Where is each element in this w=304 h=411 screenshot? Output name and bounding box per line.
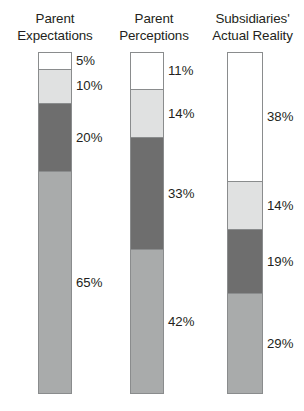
segment-label-group: 38%14%19%29% — [267, 52, 304, 394]
segment-value-label: 33% — [168, 187, 194, 201]
segment-value-label: 42% — [168, 315, 194, 329]
bar-segment — [131, 53, 163, 90]
segment-value-label: 11% — [168, 64, 193, 78]
chart-column-parent-expectations: Parent Expectations 5%10%20%65% — [0, 0, 110, 411]
chart-column-parent-perceptions: Parent Perceptions 11%14%33%42% — [104, 0, 204, 411]
bar-segment — [228, 53, 262, 182]
bar-segment — [228, 181, 262, 230]
segment-value-label: 38% — [267, 110, 293, 124]
segment-value-label: 14% — [267, 199, 293, 213]
segment-value-label: 14% — [168, 107, 194, 121]
segment-value-label: 20% — [76, 131, 102, 145]
column-title: Parent Expectations — [0, 11, 110, 44]
bar-segment — [228, 229, 262, 295]
bar-segment — [39, 69, 71, 104]
bar-segment — [39, 103, 71, 172]
bar-segment — [131, 89, 163, 138]
segment-value-label: 19% — [267, 255, 293, 269]
bar-segment — [228, 293, 262, 393]
segment-value-label: 10% — [76, 79, 102, 93]
bar-segment — [39, 53, 71, 70]
stacked-bar-chart: Parent Expectations 5%10%20%65% Parent P… — [0, 0, 304, 411]
bar-segment — [39, 171, 71, 393]
bar-segment — [131, 249, 163, 393]
column-title: Subsidiaries' Actual Reality — [201, 11, 304, 44]
stacked-bar — [38, 52, 72, 394]
segment-value-label: 65% — [76, 276, 102, 290]
stacked-bar — [130, 52, 164, 394]
column-title: Parent Perceptions — [104, 11, 204, 44]
bar-segment — [131, 137, 163, 250]
stacked-bar — [227, 52, 263, 394]
segment-value-label: 5% — [76, 54, 95, 68]
chart-column-subsidiaries-actual-reality: Subsidiaries' Actual Reality 38%14%19%29… — [201, 0, 304, 411]
segment-value-label: 29% — [267, 337, 293, 351]
